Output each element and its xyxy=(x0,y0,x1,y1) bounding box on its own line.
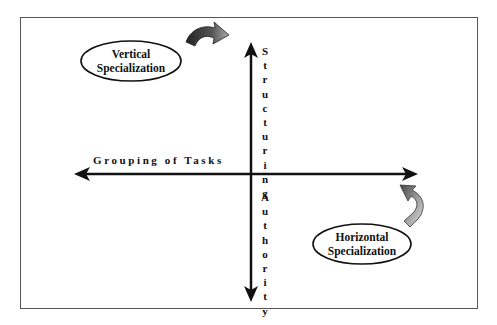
axes-diagram xyxy=(0,0,497,325)
grouping-of-tasks-label: Grouping of Tasks xyxy=(93,154,224,166)
authority-label: A u t h o r i t y xyxy=(259,190,271,318)
label-line: Horizontal xyxy=(317,230,407,244)
label-line: Vertical xyxy=(86,47,176,61)
vertical-axis xyxy=(244,42,258,302)
horizontal-specialization-label: Horizontal Specialization xyxy=(317,230,407,258)
structuring-label: S t r u c t u r i n g xyxy=(259,44,271,200)
curved-arrow-icon-bottom xyxy=(400,185,423,227)
horizontal-axis xyxy=(74,167,418,181)
label-line: Specialization xyxy=(86,61,176,75)
label-line: Specialization xyxy=(317,244,407,258)
vertical-specialization-label: Vertical Specialization xyxy=(86,47,176,75)
curved-arrow-icon-top xyxy=(186,22,229,46)
